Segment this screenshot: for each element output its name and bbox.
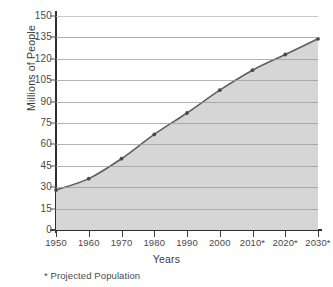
x-tick-label-1950: 1950 — [45, 238, 67, 248]
gridline-120 — [56, 59, 318, 60]
gridline-105 — [56, 80, 318, 81]
x-tick-label-2030: 2030* — [305, 238, 330, 248]
gridline-60 — [56, 144, 318, 145]
x-axis-tick-labels: 1950196019701980199020002010*2020*2030* — [0, 238, 333, 252]
y-tick-45 — [50, 165, 56, 166]
x-tick-2020 — [285, 231, 286, 237]
gridline-15 — [56, 209, 318, 210]
data-point-1980 — [152, 133, 156, 137]
gridline-150 — [56, 16, 318, 17]
x-tick-label-1960: 1960 — [78, 238, 100, 248]
y-tick-105 — [50, 80, 56, 81]
x-tick-label-2000: 2000 — [209, 238, 231, 248]
y-tick-135 — [50, 37, 56, 38]
gridline-135 — [56, 37, 318, 38]
data-point-2010 — [251, 68, 255, 72]
gridline-45 — [56, 166, 318, 167]
area-fill — [56, 39, 318, 230]
y-tick-150 — [50, 16, 56, 17]
plot-area — [56, 16, 318, 230]
data-point-1950 — [54, 188, 58, 192]
x-tick-label-1970: 1970 — [111, 238, 133, 248]
x-axis-title: Years — [0, 253, 333, 265]
y-tick-60 — [50, 144, 56, 145]
x-tick-label-2010: 2010* — [240, 238, 265, 248]
population-area-chart: Millions of People 015304560759010512013… — [0, 0, 333, 287]
x-tick-1970 — [122, 231, 123, 237]
data-point-2000 — [218, 88, 222, 92]
x-tick-1950 — [56, 231, 57, 237]
y-tick-90 — [50, 101, 56, 102]
y-tick-30 — [50, 187, 56, 188]
y-tick-75 — [50, 123, 56, 124]
gridline-30 — [56, 187, 318, 188]
y-tick-120 — [50, 58, 56, 59]
x-tick-2000 — [220, 231, 221, 237]
x-tick-2030 — [318, 231, 319, 237]
x-tick-label-1980: 1980 — [143, 238, 165, 248]
data-point-1960 — [87, 177, 91, 181]
x-tick-label-2020: 2020* — [273, 238, 298, 248]
y-tick-15 — [50, 208, 56, 209]
x-tick-label-1990: 1990 — [176, 238, 198, 248]
data-point-2020 — [283, 53, 287, 57]
data-point-1990 — [185, 111, 189, 115]
x-tick-1960 — [89, 231, 90, 237]
projected-population-footnote: * Projected Population — [44, 270, 140, 281]
gridline-75 — [56, 123, 318, 124]
gridline-90 — [56, 102, 318, 103]
x-tick-1990 — [187, 231, 188, 237]
data-point-1970 — [120, 157, 124, 161]
x-tick-1980 — [154, 231, 155, 237]
x-tick-2010 — [253, 231, 254, 237]
